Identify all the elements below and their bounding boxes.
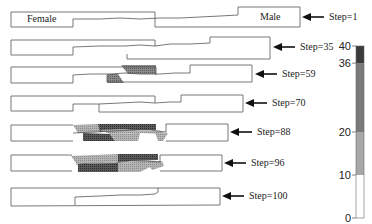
density-patch [110,133,140,141]
colorbar-tick-label: 20 [339,126,351,138]
male-label: Male [260,11,281,22]
panel-step-70 [11,95,243,112]
arrow-icon [255,70,277,78]
female-region-outline [11,96,155,111]
colorbar-tick-label: 36 [339,57,351,69]
region-outline [11,188,220,206]
panel-step-35 [11,37,270,59]
panel-step-100 [11,188,220,206]
colorbar-tick-label: 40 [339,40,351,52]
step-label: Step=88 [257,126,290,137]
step-label: Step=70 [272,97,305,108]
step-label: Step=100 [249,190,287,201]
arrow-icon [230,128,252,136]
colorbar-tick-label: 0 [345,212,351,224]
male-region-outline [166,124,228,141]
density-patch [78,163,118,172]
male-region-outline [99,95,243,112]
panel-step-1: Female Male [11,7,300,27]
density-patch [121,65,156,74]
female-region-outline [11,40,155,55]
interface-line [73,43,210,55]
colorbar-band [356,46,364,63]
density-patch [118,161,150,172]
arrow-icon [222,192,244,200]
interface-line [73,73,190,83]
density-patch [71,154,118,163]
colorbar-band [356,63,364,132]
female-region-outline [11,125,73,141]
panel-step-96 [11,154,222,172]
panel-step-88 [11,124,228,141]
arrow-icon [302,13,324,21]
step-label: Step=59 [282,68,315,79]
step-label: Step=35 [300,41,333,52]
step-label: Step=1 [329,11,357,22]
interface-line [73,15,238,27]
colorbar: 010203640 [339,40,364,224]
colorbar-band [356,132,364,175]
panel-step-59 [11,65,252,83]
colorbar-tick-label: 10 [339,169,351,181]
interface-line [73,102,181,111]
arrow-icon [273,43,295,51]
female-region-outline [11,155,72,171]
step-label: Step=96 [251,157,284,168]
colorbar-band [356,175,364,218]
female-label: Female [27,13,57,24]
interface-line [75,188,158,205]
interface-evolution-figure: Female Male [0,0,372,224]
arrow-icon [224,159,246,167]
arrow-icon [245,99,267,107]
male-region-outline [160,155,222,171]
step-markers: Step=1Step=35Step=59Step=70Step=88Step=9… [222,11,357,201]
density-patch [155,132,168,141]
